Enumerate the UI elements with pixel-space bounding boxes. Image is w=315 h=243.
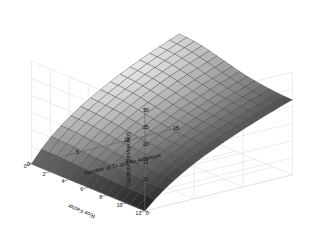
surface-plot-3d: 051015202530024681012051015Capacity [Bit… <box>0 0 315 243</box>
z-tick-label: 5 <box>146 193 149 199</box>
figure-canvas: 051015202530024681012051015Capacity [Bit… <box>0 0 315 243</box>
x-tick-label: 0 <box>27 161 30 167</box>
x-tick-label: 15 <box>173 125 179 131</box>
y-tick-label: 4 <box>61 178 64 184</box>
y-tick-label: 10 <box>117 202 123 208</box>
z-tick-label: 25 <box>143 124 149 130</box>
y-tick-label: 8 <box>99 194 102 200</box>
z-tick-label: 0 <box>146 210 149 216</box>
z-tick-label: 10 <box>143 176 149 182</box>
y-tick-label: 6 <box>80 186 83 192</box>
z-tick-label: 30 <box>143 107 149 113</box>
z-tick-label: 20 <box>143 141 149 147</box>
y-tick-label: 2 <box>43 171 46 177</box>
y-tick-label: 12 <box>136 210 142 216</box>
x-tick-label: 5 <box>76 149 79 155</box>
